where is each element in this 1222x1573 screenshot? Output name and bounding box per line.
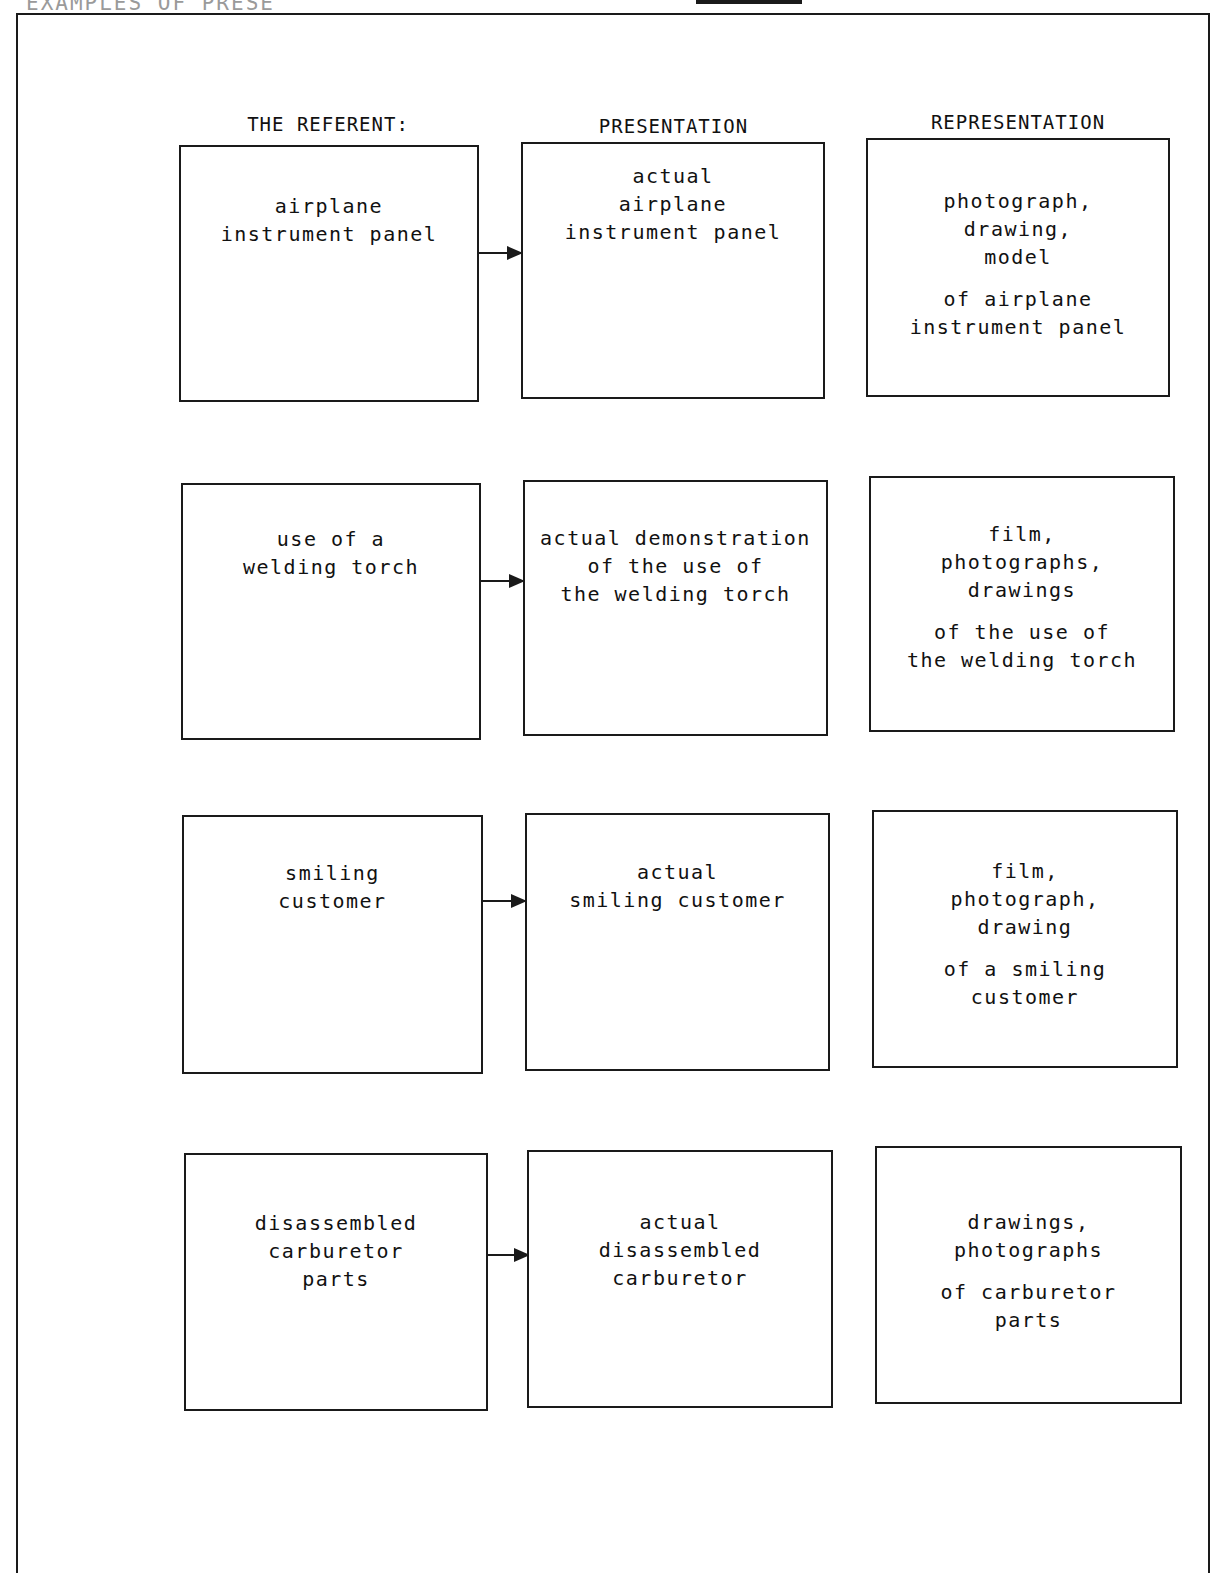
right-arrow-icon [481, 580, 523, 582]
representation-media: photographs, [871, 548, 1173, 576]
representation-media: film, [874, 857, 1176, 885]
representation-subject: the welding torch [871, 646, 1173, 674]
presentation-text: smiling customer [527, 886, 828, 914]
presentation-text: of the use of [525, 552, 826, 580]
representation-media: film, [871, 520, 1173, 548]
representation-subject: customer [874, 983, 1176, 1011]
presentation-text: the welding torch [525, 580, 826, 608]
presentation-text: instrument panel [523, 218, 823, 246]
representation-media: drawing, [868, 215, 1168, 243]
presentation-text: actual demonstration [525, 524, 826, 552]
referent-text: parts [186, 1265, 486, 1293]
representation-media: drawings, [877, 1208, 1180, 1236]
representation-media: photograph, [874, 885, 1176, 913]
presentation-text: actual [523, 162, 823, 190]
representation-subject: of the use of [871, 618, 1173, 646]
representation-media: photographs [877, 1236, 1180, 1264]
presentation-text: disassembled [529, 1236, 831, 1264]
representation-subject: instrument panel [868, 313, 1168, 341]
presentation-box-3: actual smiling customer [525, 813, 830, 1071]
referent-box-4: disassembled carburetor parts [184, 1153, 488, 1411]
presentation-text: actual [529, 1208, 831, 1236]
representation-box-1: photograph, drawing, model of airplane i… [866, 138, 1170, 397]
referent-text: disassembled [186, 1209, 486, 1237]
referent-text: airplane [181, 192, 477, 220]
presentation-box-1: actual airplane instrument panel [521, 142, 825, 399]
representation-media: photograph, [868, 187, 1168, 215]
header-representation: REPRESENTATION [858, 110, 1178, 135]
representation-box-4: drawings, photographs of carburetor part… [875, 1146, 1182, 1404]
right-arrow-icon [483, 900, 525, 902]
representation-media: model [868, 243, 1168, 271]
representation-media: drawings [871, 576, 1173, 604]
page-tab-marker [696, 0, 802, 4]
header-presentation: PRESENTATION [522, 114, 825, 139]
referent-text: instrument panel [181, 220, 477, 248]
representation-media: drawing [874, 913, 1176, 941]
representation-subject: parts [877, 1306, 1180, 1334]
presentation-text: carburetor [529, 1264, 831, 1292]
referent-text: customer [184, 887, 481, 915]
right-arrow-icon [479, 252, 521, 254]
presentation-box-2: actual demonstration of the use of the w… [523, 480, 828, 736]
presentation-text: actual [527, 858, 828, 886]
right-arrow-icon [488, 1254, 528, 1256]
representation-subject: of a smiling [874, 955, 1176, 983]
representation-box-2: film, photographs, drawings of the use o… [869, 476, 1175, 732]
referent-text: welding torch [183, 553, 479, 581]
referent-box-2: use of a welding torch [181, 483, 481, 740]
representation-subject: of carburetor [877, 1278, 1180, 1306]
representation-box-3: film, photograph, drawing of a smiling c… [872, 810, 1178, 1068]
presentation-text: airplane [523, 190, 823, 218]
presentation-box-4: actual disassembled carburetor [527, 1150, 833, 1408]
referent-box-1: airplane instrument panel [179, 145, 479, 402]
representation-subject: of airplane [868, 285, 1168, 313]
referent-text: smiling [184, 859, 481, 887]
referent-text: carburetor [186, 1237, 486, 1265]
header-referent-line-1: THE REFERENT: [150, 112, 506, 137]
referent-box-3: smiling customer [182, 815, 483, 1074]
referent-text: use of a [183, 525, 479, 553]
